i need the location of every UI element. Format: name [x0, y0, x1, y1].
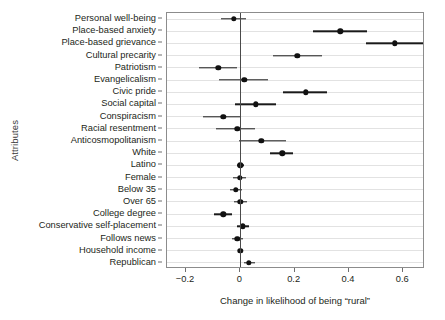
- point-estimate-marker: [233, 187, 238, 192]
- category-tick: [158, 127, 162, 128]
- gridline: [167, 177, 423, 178]
- gridline: [167, 80, 423, 81]
- x-axis-tick-label: 0.4: [341, 274, 354, 284]
- gridline: [167, 165, 423, 166]
- category-tick: [158, 18, 162, 19]
- forest-plot-figure: Attributes Personal well-beingPlace-base…: [0, 0, 445, 320]
- gridline: [167, 189, 423, 190]
- point-estimate-marker: [280, 150, 285, 155]
- x-axis-tick-label: −0.2: [176, 274, 194, 284]
- zero-reference-line: [240, 13, 241, 267]
- category-tick: [158, 225, 162, 226]
- x-axis-tick: [294, 268, 295, 272]
- point-estimate-marker: [221, 211, 226, 216]
- gridline: [167, 214, 423, 215]
- category-label: Anticosmopolitanism: [16, 135, 156, 145]
- category-tick: [158, 200, 162, 201]
- category-tick: [158, 30, 162, 31]
- point-estimate-marker: [338, 29, 343, 34]
- category-label: Female: [16, 172, 156, 182]
- category-axis-labels: Personal well-beingPlace-based anxietyPl…: [20, 12, 162, 268]
- category-tick: [158, 140, 162, 141]
- x-axis: −0.200.20.40.6: [166, 268, 424, 298]
- gridline: [167, 128, 423, 129]
- x-axis-title: Change in likelihood of being “rural”: [166, 295, 424, 306]
- category-tick: [158, 261, 162, 262]
- category-label: Personal well-being: [16, 13, 156, 23]
- point-estimate-marker: [221, 114, 226, 119]
- category-label: Household income: [16, 245, 156, 255]
- category-tick: [158, 91, 162, 92]
- point-estimate-marker: [392, 41, 397, 46]
- gridline: [167, 226, 423, 227]
- point-estimate-marker: [216, 65, 221, 70]
- x-axis-tick: [239, 268, 240, 272]
- x-axis-tick-label: 0.6: [396, 274, 409, 284]
- category-label: Over 65: [16, 196, 156, 206]
- x-axis-tick: [185, 268, 186, 272]
- category-label: College degree: [16, 208, 156, 218]
- point-estimate-marker: [241, 77, 246, 82]
- category-tick: [158, 188, 162, 189]
- category-label: White: [16, 147, 156, 157]
- point-estimate-marker: [303, 90, 308, 95]
- gridline: [167, 153, 423, 154]
- category-label: Patriotism: [16, 62, 156, 72]
- category-label: Cultural precarity: [16, 50, 156, 60]
- point-estimate-marker: [231, 16, 236, 21]
- category-tick: [158, 115, 162, 116]
- plot-area: [166, 12, 424, 268]
- category-tick: [158, 54, 162, 55]
- gridline: [167, 141, 423, 142]
- category-label: Republican: [16, 257, 156, 267]
- point-estimate-marker: [253, 102, 258, 107]
- category-label: Civic pride: [16, 86, 156, 96]
- category-tick: [158, 103, 162, 104]
- category-label: Social capital: [16, 98, 156, 108]
- point-estimate-marker: [259, 138, 264, 143]
- category-label: Below 35: [16, 184, 156, 194]
- category-label: Place-based grievance: [16, 37, 156, 47]
- category-tick: [158, 249, 162, 250]
- category-label: Latino: [16, 159, 156, 169]
- gridline: [167, 201, 423, 202]
- point-estimate-marker: [295, 53, 300, 58]
- x-axis-tick-label: 0: [237, 274, 242, 284]
- gridline: [167, 19, 423, 20]
- category-tick: [158, 42, 162, 43]
- category-tick: [158, 66, 162, 67]
- category-label: Follows news: [16, 233, 156, 243]
- point-estimate-marker: [235, 236, 240, 241]
- category-label: Evangelicalism: [16, 74, 156, 84]
- category-tick: [158, 237, 162, 238]
- x-axis-tick: [348, 268, 349, 272]
- category-label: Racial resentment: [16, 123, 156, 133]
- category-label: Conspiracism: [16, 111, 156, 121]
- category-label: Conservative self-placement: [16, 220, 156, 230]
- category-tick: [158, 176, 162, 177]
- x-axis-tick-label: 0.2: [287, 274, 300, 284]
- category-tick: [158, 164, 162, 165]
- category-tick: [158, 152, 162, 153]
- point-estimate-marker: [246, 260, 251, 265]
- gridline: [167, 31, 423, 32]
- gridline: [167, 250, 423, 251]
- x-axis-tick: [402, 268, 403, 272]
- category-tick: [158, 79, 162, 80]
- gridline: [167, 262, 423, 263]
- category-label: Place-based anxiety: [16, 25, 156, 35]
- category-tick: [158, 213, 162, 214]
- point-estimate-marker: [235, 126, 240, 131]
- gridline: [167, 238, 423, 239]
- gridline: [167, 104, 423, 105]
